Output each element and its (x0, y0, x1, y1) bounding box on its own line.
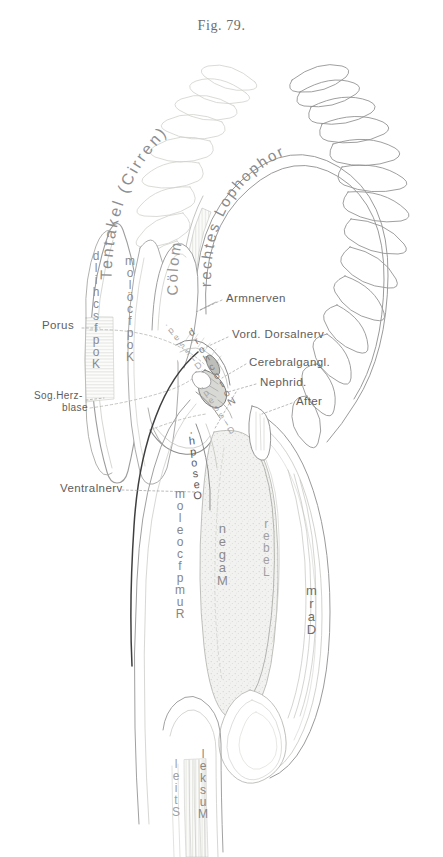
label-vord-dorsalnerv: Vord. Dorsalnerv (232, 328, 324, 341)
label-leber: Leber (263, 518, 270, 578)
figure-title: Fig. 79. (0, 18, 443, 34)
anatomical-drawing (0, 0, 443, 857)
label-armnerven: Armnerven (226, 292, 286, 305)
label-char: K (126, 351, 134, 363)
leader-lines-solid (200, 302, 216, 310)
label-char: M (198, 808, 208, 820)
figure-plate: Fig. 79. (0, 0, 443, 857)
label-kopfcoelom: Kopfcölom (125, 255, 135, 363)
label-rumpfcoelom: Rumpfcoelom (175, 488, 185, 620)
label-ventralnerv: Ventralnerv (60, 482, 123, 495)
label-cerebralgangl: Cerebralgangl. (249, 356, 330, 369)
label-heart-vesicle-line2: blase (62, 402, 88, 413)
label-muskel: Muskel (198, 748, 208, 820)
label-after: After (296, 395, 322, 408)
label-char: R (176, 608, 185, 620)
label-char: S (172, 806, 180, 818)
label-char: L (263, 566, 270, 578)
label-char: K (92, 358, 100, 370)
label-heart-vesicle-line1: Sog.Herz- (34, 390, 83, 401)
label-stiel: Stiel (172, 758, 180, 818)
label-darm: Darm (306, 584, 318, 636)
label-porus: Porus (42, 319, 74, 332)
label-nephrid: Nephrid. (260, 376, 307, 389)
label-kopfschild: Kopfschild (92, 250, 100, 370)
label-char: D (307, 623, 317, 636)
label-char: O (193, 490, 203, 502)
label-magen: Magen (217, 522, 229, 587)
label-char: M (217, 574, 229, 587)
tentacle-group-right (290, 65, 409, 448)
